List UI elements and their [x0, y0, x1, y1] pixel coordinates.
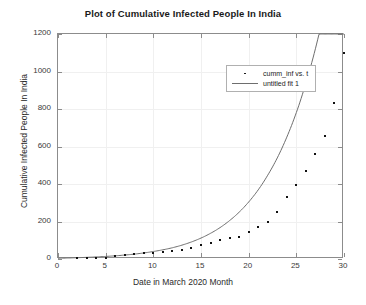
- x-tick-label: 25: [280, 261, 310, 270]
- data-point: [238, 236, 240, 238]
- x-tick-label: 5: [90, 261, 120, 270]
- legend-label-fit: untitled fit 1: [260, 80, 299, 87]
- x-tick-label: 15: [185, 261, 215, 270]
- chart-legend: cumm_inf vs. t untitled fit 1: [226, 65, 316, 92]
- chart-figure: Plot of Cumulative Infected People In In…: [0, 0, 366, 305]
- data-point: [190, 247, 192, 249]
- y-tick-mark: [58, 259, 62, 260]
- legend-item-scatter: cumm_inf vs. t: [230, 69, 312, 78]
- data-point: [133, 253, 135, 255]
- data-point: [171, 250, 173, 252]
- y-tick-label: 0: [19, 253, 51, 262]
- data-point: [276, 211, 278, 213]
- x-tick-mark: [344, 34, 345, 38]
- line-marker-icon: [230, 83, 260, 84]
- x-tick-label: 30: [328, 261, 358, 270]
- plot-area: cumm_inf vs. t untitled fit 1: [57, 33, 343, 258]
- data-point: [343, 52, 345, 54]
- data-point: [219, 239, 221, 241]
- legend-label-scatter: cumm_inf vs. t: [260, 70, 308, 77]
- y-tick-label: 1200: [19, 28, 51, 37]
- x-axis-label: Date in March 2020 Month: [0, 277, 366, 287]
- data-point: [305, 170, 307, 172]
- dot-marker-icon: [230, 73, 260, 75]
- y-tick-mark: [338, 259, 342, 260]
- data-point: [333, 102, 335, 104]
- data-point: [105, 257, 107, 259]
- data-point: [200, 244, 202, 246]
- x-tick-mark: [344, 253, 345, 257]
- data-point: [114, 255, 116, 257]
- chart-title: Plot of Cumulative Infected People In In…: [0, 8, 366, 19]
- x-tick-label: 10: [137, 261, 167, 270]
- data-point: [267, 221, 269, 223]
- y-axis-label: Cumulative Infected People In India: [19, 41, 29, 241]
- data-point: [248, 231, 250, 233]
- legend-item-fit: untitled fit 1: [230, 79, 312, 88]
- data-point: [152, 252, 154, 254]
- data-point: [295, 184, 297, 186]
- data-point: [86, 257, 88, 259]
- x-tick-label: 0: [42, 261, 72, 270]
- data-point: [124, 254, 126, 256]
- data-point: [76, 257, 78, 259]
- data-point: [257, 226, 259, 228]
- x-tick-label: 20: [233, 261, 263, 270]
- data-point: [181, 249, 183, 251]
- data-point: [162, 251, 164, 253]
- data-point: [229, 237, 231, 239]
- data-point: [210, 242, 212, 244]
- data-point: [314, 153, 316, 155]
- data-point: [95, 257, 97, 259]
- data-point: [143, 252, 145, 254]
- data-point: [324, 135, 326, 137]
- data-point: [286, 196, 288, 198]
